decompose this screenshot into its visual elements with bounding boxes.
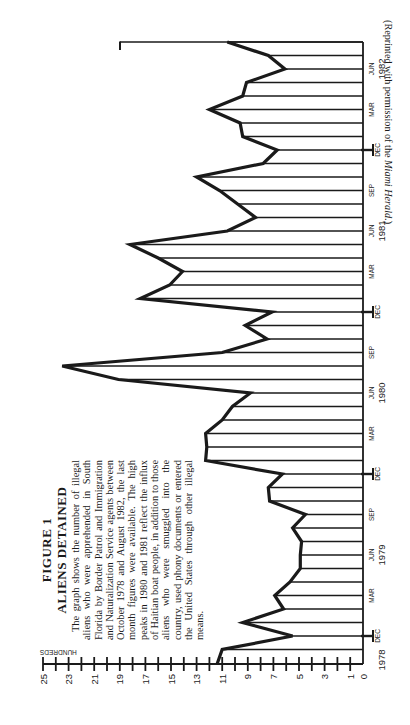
month-tick-label: MAR <box>368 264 375 279</box>
value-tick-label: 15 <box>166 674 177 685</box>
month-tick-label: SEP <box>368 346 375 359</box>
value-tick-label: 3 <box>319 674 330 679</box>
value-tick-label: 9 <box>242 674 253 679</box>
month-tick-label: DEC <box>374 143 381 157</box>
value-tick-label: 21 <box>89 674 100 685</box>
value-tick-label: 1 <box>345 674 356 679</box>
value-tick-label: 7 <box>268 674 279 679</box>
credit-line: (Reprinted with permission of the Miami … <box>382 20 394 224</box>
month-tick-label: MAR <box>368 102 375 117</box>
month-tick-label: DEC <box>374 629 381 643</box>
value-tick-label: 19 <box>114 674 125 685</box>
month-tick-label: DEC <box>374 305 381 319</box>
month-tick-label: MAR <box>368 588 375 603</box>
year-label: 1978 <box>376 649 387 670</box>
month-tick-label: MAR <box>368 426 375 441</box>
value-tick-label: 25 <box>38 674 49 685</box>
hundreds-unit-label: HUNDREDS <box>39 649 77 656</box>
caption-body: The graph shows the number of illegal al… <box>70 460 206 640</box>
figure-label: FIGURE 1 <box>40 460 54 640</box>
year-label: 1980 <box>376 382 387 403</box>
month-tick-label: JUN <box>368 62 375 75</box>
month-tick-label: SEP <box>368 508 375 521</box>
value-tick-label: 0 <box>358 674 369 679</box>
figure-title: ALIENS DETAINED <box>54 460 69 640</box>
value-axis: 0135791113151719212325 <box>38 657 369 685</box>
month-tick-label: JUN <box>368 548 375 561</box>
value-tick-label: 17 <box>140 674 151 685</box>
month-tick-label: JUN <box>368 224 375 237</box>
month-tick-label: JUN <box>368 386 375 399</box>
value-tick-label: 5 <box>294 674 305 679</box>
month-tick-label: DEC <box>374 467 381 481</box>
value-tick-label: 13 <box>191 674 202 685</box>
month-tick-label: SEP <box>368 184 375 197</box>
year-label: 1979 <box>376 544 387 565</box>
value-tick-label: 11 <box>217 674 228 684</box>
value-tick-label: 23 <box>63 674 74 685</box>
figure-caption: FIGURE 1 ALIENS DETAINED The graph shows… <box>40 460 178 640</box>
